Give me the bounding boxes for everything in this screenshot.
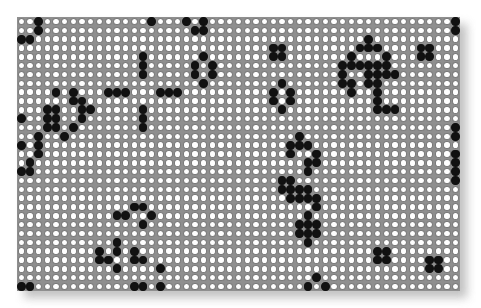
cell-dead[interactable] [287,53,294,60]
cell-dead[interactable] [18,194,25,201]
cell-dead[interactable] [313,212,320,219]
cell-dead[interactable] [44,283,51,290]
cell-dead[interactable] [191,133,198,140]
cell-dead[interactable] [148,88,155,95]
cell-dead[interactable] [26,27,33,34]
cell-alive[interactable] [278,79,287,88]
cell-dead[interactable] [165,62,172,69]
cell-alive[interactable] [78,114,87,123]
cell-alive[interactable] [130,282,139,291]
cell-dead[interactable] [61,141,68,148]
cell-dead[interactable] [287,115,294,122]
cell-dead[interactable] [313,177,320,184]
cell-dead[interactable] [322,115,329,122]
cell-dead[interactable] [313,283,320,290]
cell-dead[interactable] [165,247,172,254]
cell-alive[interactable] [278,44,287,53]
cell-dead[interactable] [426,62,433,69]
cell-dead[interactable] [87,18,94,25]
cell-dead[interactable] [113,80,120,87]
cell-dead[interactable] [226,62,233,69]
cell-dead[interactable] [374,274,381,281]
cell-dead[interactable] [61,115,68,122]
cell-dead[interactable] [278,133,285,140]
cell-dead[interactable] [235,194,242,201]
cell-dead[interactable] [426,168,433,175]
cell-dead[interactable] [52,27,59,34]
cell-dead[interactable] [105,203,112,210]
cell-dead[interactable] [217,53,224,60]
cell-dead[interactable] [330,44,337,51]
cell-dead[interactable] [122,115,129,122]
cell-dead[interactable] [226,150,233,157]
cell-alive[interactable] [338,61,347,70]
cell-dead[interactable] [356,194,363,201]
cell-dead[interactable] [356,18,363,25]
cell-dead[interactable] [435,133,442,140]
cell-dead[interactable] [61,186,68,193]
cell-alive[interactable] [139,114,148,123]
cell-dead[interactable] [157,141,164,148]
cell-dead[interactable] [304,88,311,95]
cell-dead[interactable] [443,80,450,87]
cell-dead[interactable] [270,283,277,290]
cell-dead[interactable] [174,80,181,87]
cell-dead[interactable] [35,247,42,254]
cell-dead[interactable] [200,265,207,272]
cell-alive[interactable] [382,70,391,79]
cell-dead[interactable] [443,53,450,60]
cell-dead[interactable] [96,62,103,69]
cell-dead[interactable] [426,27,433,34]
cell-dead[interactable] [374,35,381,42]
cell-dead[interactable] [78,230,85,237]
cell-dead[interactable] [174,18,181,25]
cell-dead[interactable] [417,168,424,175]
cell-dead[interactable] [61,221,68,228]
cell-dead[interactable] [87,274,94,281]
cell-dead[interactable] [322,97,329,104]
cell-dead[interactable] [26,44,33,51]
cell-dead[interactable] [374,212,381,219]
cell-alive[interactable] [173,88,182,97]
cell-dead[interactable] [452,44,459,51]
cell-dead[interactable] [78,71,85,78]
cell-dead[interactable] [139,265,146,272]
cell-dead[interactable] [122,177,129,184]
cell-dead[interactable] [322,18,329,25]
cell-dead[interactable] [131,150,138,157]
cell-dead[interactable] [44,203,51,210]
cell-dead[interactable] [409,256,416,263]
cell-dead[interactable] [87,230,94,237]
cell-dead[interactable] [252,133,259,140]
cell-dead[interactable] [70,35,77,42]
cell-dead[interactable] [330,150,337,157]
cell-dead[interactable] [96,97,103,104]
cell-dead[interactable] [217,186,224,193]
cell-dead[interactable] [339,53,346,60]
cell-dead[interactable] [261,150,268,157]
cell-dead[interactable] [261,115,268,122]
cell-dead[interactable] [400,221,407,228]
cell-dead[interactable] [191,44,198,51]
cell-dead[interactable] [443,230,450,237]
cell-dead[interactable] [105,97,112,104]
cell-dead[interactable] [174,265,181,272]
cell-dead[interactable] [365,239,372,246]
cell-alive[interactable] [382,52,391,61]
cell-dead[interactable] [70,80,77,87]
cell-dead[interactable] [391,124,398,131]
cell-dead[interactable] [209,150,216,157]
cell-dead[interactable] [261,80,268,87]
cell-dead[interactable] [217,27,224,34]
cell-dead[interactable] [44,80,51,87]
cell-dead[interactable] [183,88,190,95]
cell-dead[interactable] [78,247,85,254]
cell-dead[interactable] [443,247,450,254]
cell-dead[interactable] [409,44,416,51]
cell-dead[interactable] [52,283,59,290]
cell-dead[interactable] [18,265,25,272]
cell-dead[interactable] [391,80,398,87]
cell-dead[interactable] [435,194,442,201]
cell-dead[interactable] [252,124,259,131]
cell-dead[interactable] [348,71,355,78]
